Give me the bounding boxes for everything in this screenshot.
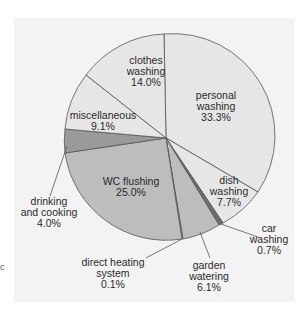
pie-chart <box>0 0 305 310</box>
leader-heating <box>146 239 182 258</box>
label-drinking-cooking: drinking and cooking 4.0% <box>21 196 78 229</box>
label-miscellaneous: miscellaneous 9.1% <box>70 110 137 132</box>
label-personal-washing: personal washing 33.3% <box>196 90 236 123</box>
label-wc-flushing: WC flushing 25.0% <box>103 176 160 198</box>
label-clothes-washing: clothes washing 14.0% <box>127 55 166 88</box>
cropped-edge-glyph: c <box>0 262 3 270</box>
label-garden-watering: garden watering 6.1% <box>189 260 229 293</box>
leader-garden <box>200 232 210 258</box>
label-direct-heating: direct heating system 0.1% <box>81 257 144 290</box>
label-dish-washing: dish washing 7.7% <box>210 175 249 208</box>
label-car-washing: car washing 0.7% <box>250 223 289 256</box>
leader-drinking <box>50 146 67 196</box>
